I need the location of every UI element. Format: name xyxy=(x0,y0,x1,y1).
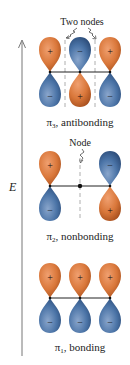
energy-axis: E xyxy=(8,40,26,356)
svg-text:+: + xyxy=(47,46,53,57)
two-nodes-annotation: Two nodes xyxy=(60,16,104,27)
energy-axis-label: E xyxy=(8,180,17,194)
orbital-label-pi2: π2, nonbonding xyxy=(46,230,114,244)
orbital-label-pi3: π3, antibonding xyxy=(46,116,114,130)
svg-text:−: − xyxy=(47,91,53,102)
squiggle-arrow-icon xyxy=(67,28,77,38)
svg-text:+: + xyxy=(77,91,83,102)
svg-text:+: + xyxy=(47,272,53,283)
pi-molecular-orbital-diagram: E Two nodes + − − + + − xyxy=(0,0,130,365)
orbital-pi3-antibonding: Two nodes + − − + + − π3, antibond xyxy=(39,16,121,130)
svg-text:−: − xyxy=(107,317,113,328)
orbital-label-pi1: π1, bonding xyxy=(55,341,106,355)
svg-text:−: − xyxy=(47,205,53,216)
svg-text:−: − xyxy=(47,317,53,328)
svg-text:+: + xyxy=(47,160,53,171)
svg-text:−: − xyxy=(77,46,83,57)
svg-text:−: − xyxy=(107,160,113,171)
orbital-pi1-bonding: + − + − + − π1, bonding xyxy=(39,263,121,355)
svg-text:−: − xyxy=(107,91,113,102)
svg-text:+: + xyxy=(107,46,113,57)
squiggle-arrow-icon xyxy=(80,149,84,161)
svg-text:+: + xyxy=(107,272,113,283)
central-atom-dot xyxy=(78,184,82,188)
node-annotation: Node xyxy=(69,137,91,148)
svg-text:−: − xyxy=(77,317,83,328)
svg-text:+: + xyxy=(107,205,113,216)
squiggle-arrow-icon xyxy=(88,28,95,38)
svg-text:+: + xyxy=(77,272,83,283)
orbital-pi2-nonbonding: Node + − − + π2, nonbonding xyxy=(39,137,121,244)
